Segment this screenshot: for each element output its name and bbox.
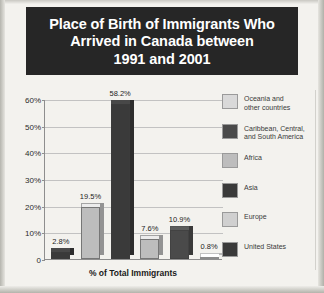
bar-side-face [189,226,193,255]
bar-top-face [111,100,130,104]
bar-front-face [140,239,159,259]
y-axis-tick-label: 20% [25,202,41,211]
bar[interactable]: 19.5% [81,203,100,259]
bar-side-face [130,100,134,255]
bar-side-face [70,248,74,255]
bar-top-face [200,253,219,257]
bar-front-face [111,104,130,259]
bar-front-face [81,207,100,259]
legend-item[interactable]: Europe [222,212,267,227]
legend-swatch [222,153,238,168]
bar-front-face [170,230,189,259]
legend-label: Caribbean, Central, and South America [244,124,305,142]
y-axis-tick-label: 30% [25,176,41,185]
gridline [45,127,223,128]
bar-top-face [170,226,189,230]
y-axis-tick-mark [42,207,45,208]
y-axis-tick-label: 50% [25,122,41,131]
bar-value-label: 0.8% [201,242,218,251]
legend-swatch [222,183,238,198]
gridline [45,180,223,181]
legend-item[interactable]: United States [222,242,286,257]
plot-area: 60%50%40%30%20%10%02.8%19.5%58.2%7.6%10.… [44,100,222,260]
y-axis-tick-mark [42,153,45,154]
y-axis-tick-label: 10% [25,229,41,238]
bar-front-face [200,257,219,259]
legend-divider-rule [315,90,316,270]
bar-value-label: 7.6% [141,224,158,233]
legend-swatch [222,242,238,257]
chart-title-line-2: Arrived in Canada between [70,33,254,51]
y-axis-tick-label: 0 [37,256,41,265]
bar-value-label: 58.2% [110,89,131,98]
chart-title-line-1: Place of Birth of Immigrants Who [49,16,275,34]
gridline [45,153,223,154]
bar-top-face [140,235,159,239]
gridline [45,100,223,101]
legend-swatch [222,124,238,139]
chart-legend: Oceania and other countriesCaribbean, Ce… [222,94,318,272]
y-axis-tick-mark [42,127,45,128]
page-edge-top [0,0,324,4]
bar[interactable]: 58.2% [111,100,130,259]
legend-swatch [222,212,238,227]
legend-label: Oceania and other countries [244,94,290,112]
legend-item[interactable]: Oceania and other countries [222,94,290,112]
page-edge-right [318,0,324,293]
bar-top-face [51,248,70,252]
bar[interactable]: 0.8% [200,253,219,259]
bar-side-face [159,235,163,255]
chart-title-banner: Place of Birth of Immigrants Who Arrived… [26,7,298,75]
page-edge-left [0,0,5,293]
bar[interactable]: 7.6% [140,235,159,259]
legend-label: Asia [244,183,258,193]
chart-page: Place of Birth of Immigrants Who Arrived… [0,0,324,293]
y-axis-tick-mark [42,260,45,261]
bar-top-face [81,203,100,207]
bar-value-label: 19.5% [80,192,101,201]
page-edge-bottom [0,286,324,293]
bar[interactable]: 2.8% [51,248,70,259]
x-axis-title: % of Total Immigrants [44,268,222,278]
bar-side-face [100,203,104,255]
bar-front-face [51,252,70,259]
gridline [45,207,223,208]
gridline [45,233,223,234]
legend-item[interactable]: Asia [222,183,258,198]
legend-item[interactable]: Africa [222,153,262,168]
legend-label: Africa [244,153,262,163]
chart-title-line-3: 1991 and 2001 [113,51,210,69]
y-axis-tick-label: 40% [25,149,41,158]
y-axis-tick-label: 60% [25,96,41,105]
bar-value-label: 10.9% [169,215,190,224]
legend-label: United States [244,242,286,252]
y-axis-tick-mark [42,233,45,234]
legend-label: Europe [244,212,267,222]
y-axis-tick-mark [42,100,45,101]
legend-item[interactable]: Caribbean, Central, and South America [222,124,305,142]
y-axis-tick-mark [42,180,45,181]
bar[interactable]: 10.9% [170,226,189,259]
legend-swatch [222,94,238,109]
bar-value-label: 2.8% [52,237,69,246]
